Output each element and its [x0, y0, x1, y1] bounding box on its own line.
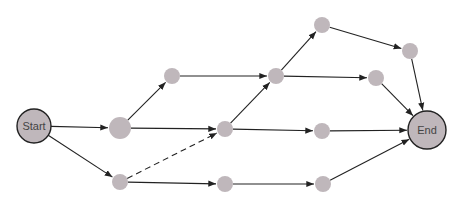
- edges-group: [48, 27, 423, 184]
- edge-start-to-c: [48, 135, 112, 177]
- node-f: [314, 17, 330, 33]
- edge-c-to-e-dummy: [127, 133, 217, 178]
- edge-d-to-f: [281, 32, 316, 70]
- node-i: [217, 176, 233, 192]
- node-a: [109, 117, 131, 139]
- edge-c-to-i: [128, 182, 216, 184]
- node-h: [314, 123, 330, 139]
- node-d: [268, 68, 284, 84]
- edge-f-to-k: [330, 27, 402, 48]
- node-e: [217, 121, 233, 137]
- edge-h-to-end: [330, 130, 407, 131]
- edge-e-to-d: [231, 82, 270, 123]
- node-c: [112, 174, 128, 190]
- node-k: [402, 43, 418, 59]
- node-label-end: End: [417, 124, 437, 136]
- edge-a-to-b: [128, 82, 166, 120]
- edge-g-to-end: [382, 84, 413, 116]
- node-g: [368, 70, 384, 86]
- edge-e-to-h: [233, 129, 313, 131]
- edge-k-to-end: [412, 59, 423, 111]
- network-diagram: StartEnd: [0, 0, 464, 205]
- diagram-canvas: [0, 0, 464, 205]
- node-label-start: Start: [22, 120, 45, 132]
- edge-j-to-end: [330, 139, 409, 180]
- edge-a-to-e: [131, 128, 216, 129]
- nodes-group: [17, 17, 446, 192]
- edge-start-to-a: [51, 126, 108, 127]
- node-b: [164, 68, 180, 84]
- node-j: [315, 176, 331, 192]
- edge-d-to-g: [284, 76, 367, 78]
